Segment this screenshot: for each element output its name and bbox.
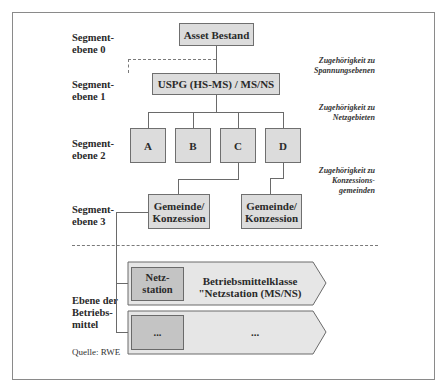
asset-class-2-title-line1: ... [190, 326, 320, 338]
asset-class-2-title: ... [190, 326, 320, 338]
source-caption: Quelle: RWE [72, 347, 120, 357]
asset-netzstation-box: Netz- station [131, 267, 184, 301]
asset-netzstation-box-line1: Netz- [146, 272, 170, 284]
asset-class-1-title: Betriebsmittelklasse "Netzstation (MS/NS… [190, 275, 310, 299]
asset-netzstation-box-line2: station [142, 284, 172, 296]
asset-class-1-title-line1: Betriebsmittelklasse [190, 275, 310, 287]
asset-placeholder-box-label: ... [154, 327, 162, 339]
asset-placeholder-box: ... [131, 315, 184, 350]
asset-class-1-title-line2: "Netzstation (MS/NS) [190, 287, 310, 299]
